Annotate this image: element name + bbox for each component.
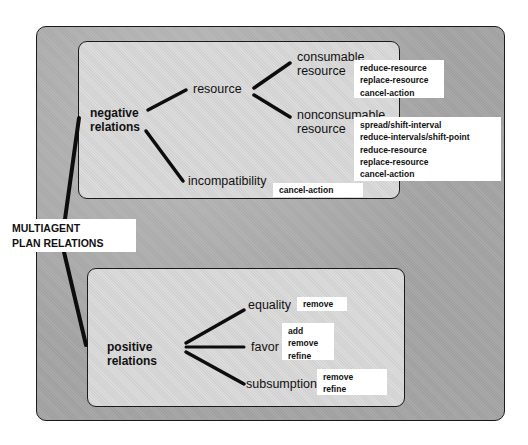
action-item: spread/shift-interval <box>360 119 495 131</box>
equality-actions-list: remove <box>297 297 347 311</box>
negative-label-line1: negative <box>90 106 140 120</box>
action-item: replace-resource <box>360 156 495 168</box>
negative-relations-node: negative relations <box>90 106 140 134</box>
action-item: reduce-resource <box>360 62 438 74</box>
action-item: add <box>288 325 328 337</box>
root-node-multiagent-plan-relations: MULTIAGENT PLAN RELATIONS <box>8 219 136 252</box>
root-label-line1: MULTIAGENT <box>12 221 132 236</box>
action-item: replace-resource <box>360 74 438 86</box>
action-item: remove <box>303 298 341 310</box>
action-item: refine <box>323 383 381 395</box>
positive-label-line2: relations <box>107 354 157 368</box>
root-label-line2: PLAN RELATIONS <box>12 236 132 251</box>
action-item: refine <box>288 350 328 362</box>
positive-relations-node: positive relations <box>107 340 157 368</box>
subsumption-actions-list: remove refine <box>317 369 387 395</box>
negative-label-line2: relations <box>90 120 140 134</box>
resource-node: resource <box>193 82 242 96</box>
positive-label-line1: positive <box>107 340 157 354</box>
action-item: remove <box>288 337 328 349</box>
consumable-actions-list: reduce-resource replace-resource cancel-… <box>354 60 444 98</box>
action-item: remove <box>323 371 381 383</box>
favor-node: favor <box>251 340 279 354</box>
incompatibility-node: incompatibility <box>188 174 267 188</box>
action-item: cancel-action <box>360 168 495 180</box>
action-item: cancel-action <box>360 87 438 99</box>
nonconsumable-actions-list: spread/shift-interval reduce-intervals/s… <box>354 117 501 181</box>
action-item: cancel-action <box>279 184 357 196</box>
incompatibility-actions-list: cancel-action <box>273 183 363 197</box>
action-item: reduce-resource <box>360 144 495 156</box>
action-item: reduce-intervals/shift-point <box>360 131 495 143</box>
subsumption-node: subsumption <box>246 377 317 391</box>
favor-actions-list: add remove refine <box>282 323 334 360</box>
equality-node: equality <box>248 298 291 312</box>
